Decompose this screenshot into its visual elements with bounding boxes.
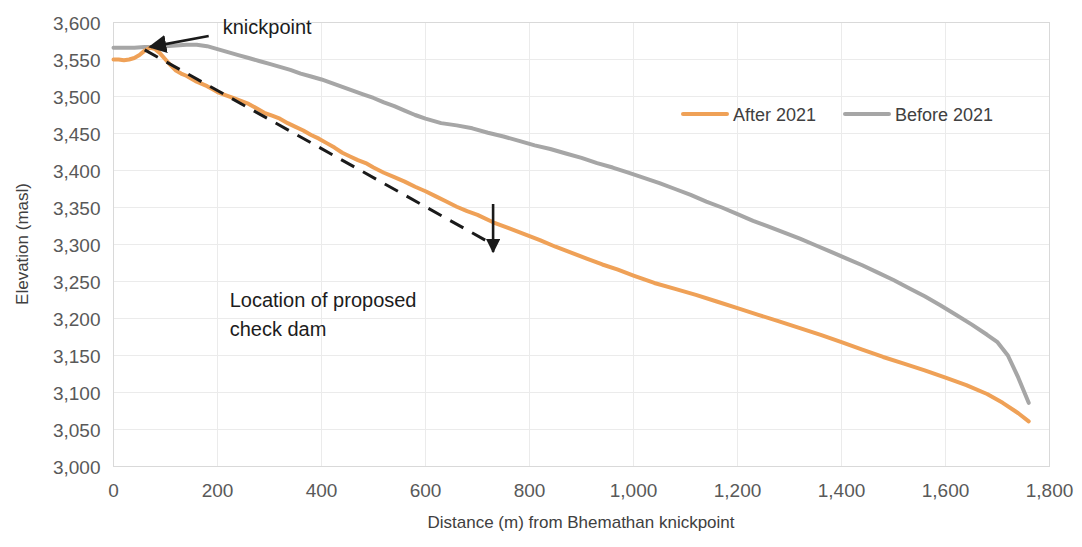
y-tick-label: 3,450 (53, 124, 101, 145)
x-tick-label: 1,200 (714, 480, 762, 501)
x-tick-label: 0 (108, 480, 119, 501)
chart-canvas: 3,0003,0503,1003,1503,2003,2503,3003,350… (0, 0, 1082, 547)
x-tick-label: 1,600 (922, 480, 970, 501)
x-tick-label: 1,000 (610, 480, 658, 501)
check-dam-annotation-label-line2: check dam (230, 318, 327, 340)
y-tick-label: 3,200 (53, 309, 101, 330)
y-tick-label: 3,050 (53, 420, 101, 441)
y-tick-label: 3,150 (53, 346, 101, 367)
x-tick-label: 200 (202, 480, 234, 501)
check-dam-annotation-label-line1: Location of proposed (230, 289, 417, 311)
y-axis-title: Elevation (masl) (13, 183, 32, 305)
x-tick-label: 800 (514, 480, 546, 501)
y-tick-label: 3,400 (53, 161, 101, 182)
knickpoint-annotation-label: knickpoint (223, 16, 312, 38)
legend-label-before-2021: Before 2021 (895, 105, 993, 125)
legend-label-after-2021: After 2021 (733, 105, 816, 125)
elevation-profile-chart: 3,0003,0503,1003,1503,2003,2503,3003,350… (0, 0, 1082, 547)
x-tick-label: 600 (410, 480, 442, 501)
x-tick-label: 1,400 (818, 480, 866, 501)
y-tick-label: 3,500 (53, 87, 101, 108)
y-tick-label: 3,550 (53, 50, 101, 71)
y-tick-label: 3,100 (53, 383, 101, 404)
y-tick-label: 3,600 (53, 13, 101, 34)
y-tick-label: 3,250 (53, 272, 101, 293)
x-axis-title: Distance (m) from Bhemathan knickpoint (427, 513, 734, 532)
x-tick-label: 1,800 (1026, 480, 1074, 501)
chart-background (0, 0, 1082, 547)
y-tick-label: 3,350 (53, 198, 101, 219)
x-tick-label: 400 (306, 480, 338, 501)
y-tick-label: 3,000 (53, 457, 101, 478)
y-tick-label: 3,300 (53, 235, 101, 256)
